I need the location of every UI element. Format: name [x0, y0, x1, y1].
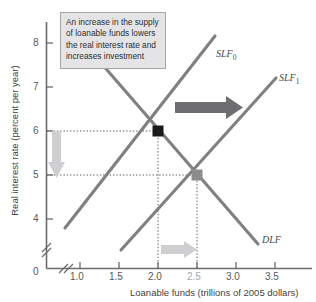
curve-label-slf0-text: SLF: [216, 48, 233, 59]
callout-text: An increase in the supply of loanable fu…: [66, 17, 160, 63]
y-tick-7: 7: [33, 81, 39, 92]
curve-label-slf1-text: SLF: [279, 72, 296, 83]
x-tick-3-5: 3.5: [265, 271, 279, 282]
y-tick-6: 6: [33, 125, 39, 136]
x-tick-1-5: 1.5: [109, 271, 123, 282]
investment-rises-arrow: [161, 241, 197, 258]
x-axis-ticks: [80, 262, 275, 269]
curve-label-dlf: DLF: [262, 234, 281, 245]
callout-box: An increase in the supply of loanable fu…: [60, 12, 166, 69]
y-tick-5: 5: [33, 169, 39, 180]
x-tick-2-0: 2.0: [148, 271, 162, 282]
supply-shift-arrow: [175, 96, 243, 119]
y-tick-4: 4: [33, 213, 39, 224]
new-equilibrium-point: [192, 170, 203, 181]
x-tick-1-0: 1.0: [70, 271, 84, 282]
x-tick-2-5: 2.5: [187, 271, 201, 282]
x-axis-title: Loanable funds (trillions of 2005 dollar…: [130, 287, 298, 298]
curve-label-slf0: SLF0: [216, 48, 236, 62]
y-tick-0: 0: [33, 266, 39, 277]
curve-label-slf0-sub: 0: [233, 53, 237, 62]
curve-label-slf1: SLF1: [279, 72, 299, 86]
curve-label-slf1-sub: 1: [296, 77, 300, 86]
loanable-funds-chart: 8 7 6 5 4 0 1.0 1.5 2.0 2.5 3.0 3.5 Loan…: [0, 0, 316, 302]
y-tick-8: 8: [33, 37, 39, 48]
initial-equilibrium-point: [153, 126, 164, 137]
x-tick-3-0: 3.0: [226, 271, 240, 282]
y-axis-title: Real interest rate (percent per year): [9, 61, 20, 221]
rate-falls-arrow: [48, 131, 65, 178]
